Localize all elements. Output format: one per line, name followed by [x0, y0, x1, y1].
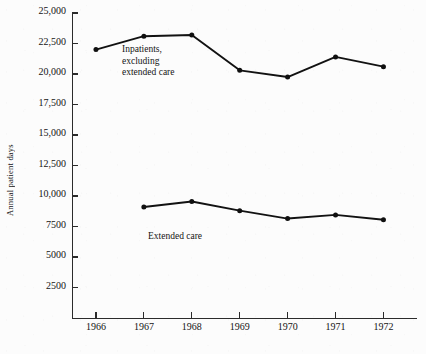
data-point: [285, 75, 290, 80]
data-point: [381, 64, 386, 69]
data-point: [381, 217, 386, 222]
series-label-extended-care: Extended care: [148, 231, 202, 243]
data-point: [285, 216, 290, 221]
data-point: [333, 212, 338, 217]
chart-figure: Annual patient days 25005000750010,00012…: [0, 0, 426, 354]
series-label-inpatients: Inpatients, excluding extended care: [122, 44, 174, 79]
data-point: [141, 34, 146, 39]
data-point: [189, 199, 194, 204]
data-point: [237, 208, 242, 213]
data-point: [93, 47, 98, 52]
data-point: [333, 54, 338, 59]
plot-area: [0, 0, 426, 354]
data-point: [237, 68, 242, 73]
data-point: [189, 32, 194, 37]
data-point: [141, 204, 146, 209]
series-line-1: [144, 201, 384, 219]
